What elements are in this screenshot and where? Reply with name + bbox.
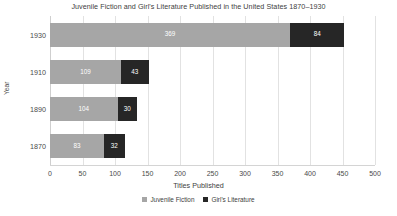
bar-group-1910: 10943 (50, 60, 149, 84)
chart-legend: Juvenile FictionGirl's Literature (0, 196, 397, 203)
legend-label: Juvenile Fiction (150, 196, 194, 203)
legend-label: Girl's Literature (211, 196, 254, 203)
bar-value-label: 30 (124, 106, 131, 112)
bar-segment-1930-series0[interactable]: 369 (50, 23, 290, 47)
y-tick-label-1890: 1890 (6, 105, 46, 114)
legend-item-series0[interactable]: Juvenile Fiction (142, 196, 194, 203)
x-tick-label-150: 150 (133, 170, 163, 177)
plot-area: 3698410943104308332 (50, 16, 375, 165)
chart-title: Juvenile Fiction and Girl's Literature P… (0, 2, 397, 11)
x-tick-label-300: 300 (230, 170, 260, 177)
bar-segment-1930-series1[interactable]: 84 (290, 23, 345, 47)
legend-swatch-icon (142, 197, 147, 202)
x-tick-label-200: 200 (165, 170, 195, 177)
bar-value-label: 369 (165, 31, 176, 37)
x-tick-label-450: 450 (328, 170, 358, 177)
y-tick-label-1910: 1910 (6, 67, 46, 76)
legend-item-series1[interactable]: Girl's Literature (203, 196, 254, 203)
x-axis-line (50, 165, 375, 166)
gridline-500 (375, 16, 376, 165)
bar-segment-1870-series0[interactable]: 83 (50, 134, 104, 158)
y-tick-label-1870: 1870 (6, 142, 46, 151)
chart-container: Juvenile Fiction and Girl's Literature P… (0, 0, 397, 216)
x-tick-label-100: 100 (100, 170, 130, 177)
y-axis-title: Year (3, 82, 10, 95)
bar-group-1870: 8332 (50, 134, 125, 158)
y-tick-label-1930: 1930 (6, 30, 46, 39)
bars-layer: 3698410943104308332 (50, 16, 375, 165)
bar-segment-1910-series0[interactable]: 109 (50, 60, 121, 84)
bar-segment-1890-series1[interactable]: 30 (118, 97, 138, 121)
x-axis-title: Titles Published (0, 181, 397, 190)
bar-group-1890: 10430 (50, 97, 137, 121)
bar-value-label: 43 (131, 69, 138, 75)
legend-swatch-icon (203, 197, 208, 202)
x-tick-label-500: 500 (360, 170, 390, 177)
x-tick-label-350: 350 (263, 170, 293, 177)
x-tick-label-250: 250 (198, 170, 228, 177)
bar-group-1930: 36984 (50, 23, 344, 47)
x-tick-label-50: 50 (68, 170, 98, 177)
x-tick-label-400: 400 (295, 170, 325, 177)
bar-segment-1910-series1[interactable]: 43 (121, 60, 149, 84)
bar-segment-1870-series1[interactable]: 32 (104, 134, 125, 158)
bar-value-label: 104 (79, 106, 90, 112)
bar-value-label: 32 (111, 143, 118, 149)
x-tick-label-0: 0 (35, 170, 65, 177)
bar-value-label: 83 (73, 143, 80, 149)
bar-value-label: 84 (314, 31, 321, 37)
bar-value-label: 109 (80, 69, 91, 75)
bar-segment-1890-series0[interactable]: 104 (50, 97, 118, 121)
